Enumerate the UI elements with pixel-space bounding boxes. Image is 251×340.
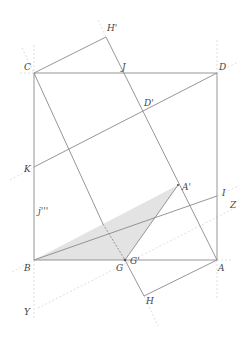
label-h: H <box>145 296 154 306</box>
label-a-prime: A' <box>181 182 191 192</box>
construction-line-h-prime-up <box>98 20 106 37</box>
label-d: D <box>218 62 226 72</box>
point-g <box>124 259 127 262</box>
label-a: A <box>217 263 225 273</box>
point-a-prime <box>177 184 179 186</box>
geometry-diagram: H' C J D D' K I A' Z j''' B G G' A H Y <box>0 0 251 340</box>
label-z: Z <box>229 200 237 210</box>
line-h-a <box>144 260 217 296</box>
shaded-triangle <box>34 185 178 260</box>
label-d-prime: D' <box>143 98 154 108</box>
label-y: Y <box>24 307 31 317</box>
line-c-h-prime <box>34 37 106 73</box>
label-h-prime: H' <box>106 23 117 33</box>
label-g: G <box>116 263 123 273</box>
label-i: I <box>221 188 226 198</box>
label-k: K <box>23 164 32 174</box>
label-c: C <box>24 62 31 72</box>
line-d-k <box>34 73 217 167</box>
line-c-g-solid <box>34 73 103 224</box>
label-g-prime: G' <box>130 256 140 266</box>
label-j-triple-prime: j''' <box>36 206 48 216</box>
label-b: B <box>23 263 31 273</box>
construction-line-i-right <box>217 186 238 196</box>
label-j: J <box>120 62 127 72</box>
construction-line-b-left <box>12 260 34 272</box>
